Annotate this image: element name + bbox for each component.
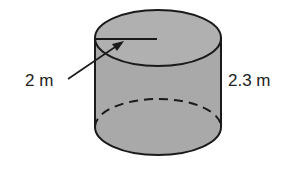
height-label: 2.3 m [228,72,271,89]
radius-label: 2 m [25,72,53,89]
